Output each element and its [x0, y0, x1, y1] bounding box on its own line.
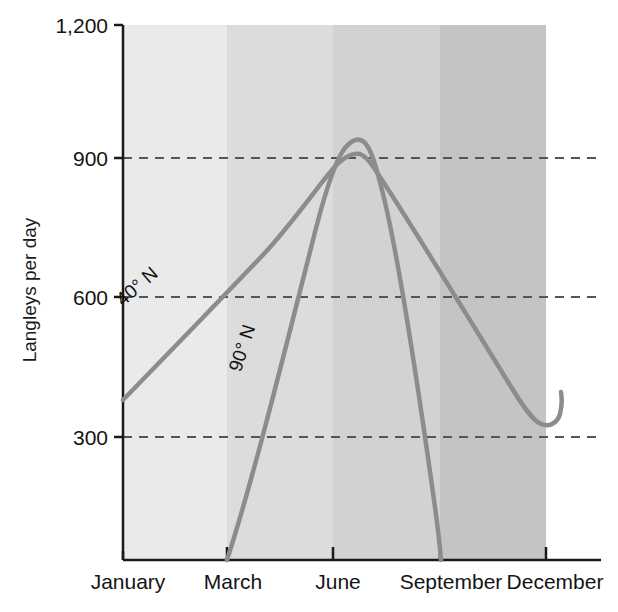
x-tick-label-december: December: [507, 570, 604, 593]
y-tick-labels: 1,200 900 600 300: [55, 14, 108, 449]
x-tick-labels: January March June September December: [91, 570, 604, 593]
x-tick-label-june: June: [315, 570, 361, 593]
y-tick-label-600: 600: [73, 286, 108, 309]
x-tick-label-september: September: [400, 570, 503, 593]
y-axis-ticks: [114, 25, 123, 437]
x-tick-label-march: March: [204, 570, 262, 593]
background-band-mar-jun: [227, 25, 333, 560]
chart-figure: 1,200 900 600 300 Langleys per day Janua…: [0, 0, 618, 612]
background-band-sep-dec: [440, 25, 546, 560]
x-tick-label-january: January: [91, 570, 166, 593]
solar-radiation-line-chart: 1,200 900 600 300 Langleys per day Janua…: [0, 0, 618, 612]
background-bands: [123, 25, 546, 560]
y-tick-label-300: 300: [73, 426, 108, 449]
y-tick-label-1200: 1,200: [55, 14, 108, 37]
background-band-jun-sep: [333, 25, 440, 560]
y-axis-title: Langleys per day: [19, 217, 40, 362]
y-tick-label-900: 900: [73, 147, 108, 170]
